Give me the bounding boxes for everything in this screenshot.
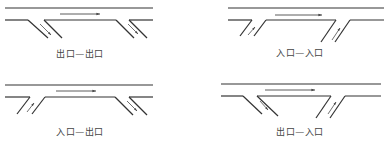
panel-label-exit-entrance: 出口—入口 [276, 125, 324, 138]
panel-label-entrance-exit: 入口—出口 [56, 125, 104, 138]
ramp-edge [316, 96, 331, 118]
ramp-edge [240, 20, 252, 36]
panel-label-exit-exit: 出口—出口 [56, 47, 104, 60]
exit-ramp [243, 96, 278, 116]
ramp-edge [44, 20, 62, 38]
panel-label-entrance-entrance: 入口—入口 [276, 46, 324, 59]
entrance-ramp [240, 20, 266, 36]
ramp-direction-arrow-icon [127, 101, 137, 111]
ramp-edge [32, 97, 45, 114]
ramp-direction-arrow-icon [27, 103, 34, 112]
ramp-direction-arrow-icon [248, 27, 255, 35]
exit-ramp [115, 97, 147, 115]
ramp-edge [321, 20, 336, 42]
entrance-ramp [316, 96, 345, 118]
ramp-edge [115, 97, 133, 115]
ramp-edge [17, 97, 30, 114]
panel-entrance-entrance [228, 8, 384, 42]
ramp-edge [335, 20, 350, 42]
ramp-direction-arrow-icon [328, 102, 336, 114]
ramp-drawing [0, 0, 384, 144]
panel-exit-entrance [221, 84, 381, 118]
panel-exit-exit [5, 8, 153, 38]
ramp-edge [254, 20, 266, 36]
exit-ramp [116, 20, 147, 38]
ramp-direction-arrow-icon [128, 24, 138, 34]
ramp-spacing-diagram: 出口—出口 入口—入口 入口—出口 出口—入口 [0, 0, 384, 144]
entrance-ramp [321, 20, 350, 42]
entrance-ramp [17, 97, 45, 114]
exit-ramp [28, 20, 62, 38]
panel-entrance-exit [5, 85, 153, 115]
ramp-direction-arrow-icon [332, 28, 340, 40]
